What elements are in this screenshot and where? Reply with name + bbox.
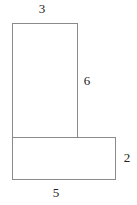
label-top-width: 3	[39, 1, 46, 16]
label-tall-height: 6	[84, 73, 91, 88]
label-base-width: 5	[53, 185, 60, 200]
label-base-height: 2	[124, 150, 131, 165]
base-rectangle	[13, 138, 116, 180]
tall-rectangle	[13, 24, 78, 138]
l-shape-diagram: 3 6 2 5	[0, 0, 137, 205]
